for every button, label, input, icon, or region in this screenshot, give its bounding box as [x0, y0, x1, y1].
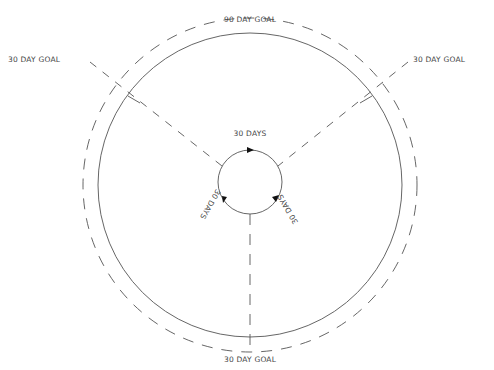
goal-label-bottom: 30 DAY GOAL	[224, 355, 277, 364]
cycle-label-top: 30 DAYS	[234, 129, 267, 138]
outer-solid-circle	[98, 33, 402, 337]
goal-cycle-diagram: 90 DAY GOAL 30 DAY GOAL 30 DAY GOAL 30 D…	[0, 0, 494, 370]
tick-top-left	[128, 96, 140, 103]
inner-cycle-circle	[218, 150, 282, 214]
goal-label-top-right: 30 DAY GOAL	[413, 55, 466, 64]
tick-top-right	[360, 96, 372, 103]
cycle-label-left: 30 DAYS	[198, 188, 222, 221]
goal-label-top-left: 30 DAY GOAL	[8, 55, 61, 64]
spoke-top-right	[278, 62, 408, 166]
outer-goal-label: 90 DAY GOAL	[224, 15, 277, 24]
cycle-label-right: 30 DAYS	[276, 193, 300, 226]
spoke-top-left	[90, 62, 222, 166]
arrow-icon-top	[247, 147, 254, 153]
